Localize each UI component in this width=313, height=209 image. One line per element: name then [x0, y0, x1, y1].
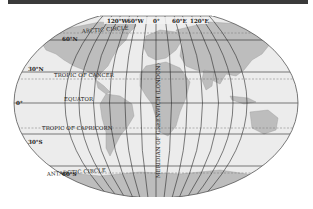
- greenwich-meridian-label: MERIDIAN OF GREENWICH (LONDON): [155, 63, 161, 178]
- equator-label: EQUATOR: [64, 96, 94, 102]
- lon-label-60w: 60°W: [127, 18, 145, 24]
- tropic-capricorn-label: TROPIC OF CAPRICORN: [42, 125, 113, 131]
- longitude-labels: 120°W 60°W 0° 60°E 120°E: [104, 17, 209, 24]
- lon-label-120e: 120°E: [190, 18, 209, 24]
- lon-label-60e: 60°E: [172, 18, 187, 24]
- lon-label-120w: 120°W: [107, 18, 128, 24]
- lat-label-30n: 30°N: [28, 66, 44, 72]
- lat-label-0: 0°: [16, 100, 23, 106]
- world-map: 120°W 60°W 0° 60°E 120°E 60°N 30°N 0° 30…: [0, 0, 313, 209]
- lat-label-60n: 60°N: [62, 36, 78, 42]
- tropic-cancer-label: TROPIC OF CANCER: [54, 72, 115, 78]
- lon-label-0: 0°: [153, 18, 160, 24]
- lat-label-30s: 30°S: [28, 139, 43, 145]
